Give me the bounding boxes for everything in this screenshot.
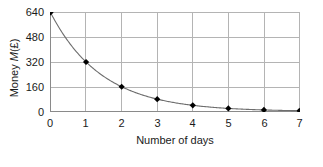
x-tick-label: 7: [288, 117, 312, 129]
y-axis-title-variable: M: [8, 52, 20, 61]
x-tick-label: 3: [146, 117, 170, 129]
y-tick-label: 640: [0, 7, 44, 18]
chart-container: 640 480 320 160 0 Money M(£): [0, 0, 323, 167]
x-tick-label: 4: [181, 117, 205, 129]
data-point: [119, 84, 125, 90]
x-axis-title: Number of days: [50, 134, 300, 146]
x-tick-label: 6: [253, 117, 277, 129]
data-point: [296, 108, 300, 112]
data-series: [50, 12, 300, 112]
x-tick-label: 2: [110, 117, 134, 129]
y-tick-label: 320: [0, 57, 44, 68]
y-tick-label: 480: [0, 32, 44, 43]
x-axis-tick-labels: 0 1 2 3 4 5 6 7: [50, 117, 300, 131]
y-axis-title: Money M(£): [8, 24, 20, 112]
y-axis-title-suffix: (£): [8, 39, 20, 52]
data-point: [225, 105, 231, 111]
x-tick-label: 1: [74, 117, 98, 129]
data-point: [261, 107, 267, 112]
y-axis-tick-labels: 640 480 320 160 0: [0, 0, 44, 167]
y-tick-label: 0: [0, 107, 44, 118]
data-point: [154, 96, 160, 102]
y-tick-label: 160: [0, 82, 44, 93]
x-tick-label: 0: [38, 117, 62, 129]
y-axis-title-prefix: Money: [8, 61, 20, 97]
series-markers: [50, 12, 300, 112]
x-tick-label: 5: [217, 117, 241, 129]
data-point: [190, 102, 196, 108]
plot-area: [50, 12, 300, 112]
